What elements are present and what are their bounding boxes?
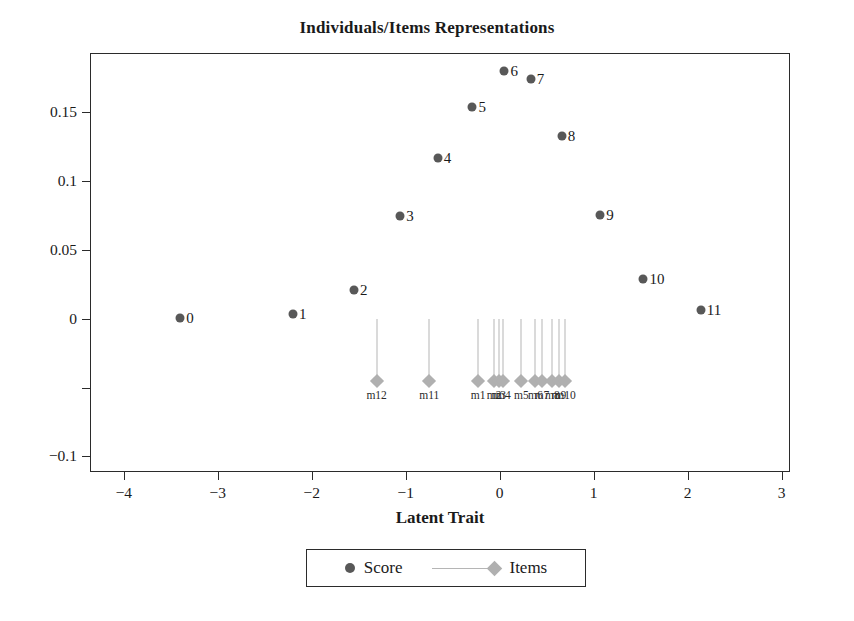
- item-label: m10: [555, 389, 575, 401]
- item-stem: [565, 319, 566, 382]
- y-axis-tick-label: 0.05: [50, 241, 77, 259]
- score-label: 11: [707, 301, 721, 318]
- x-axis-tick: [218, 471, 219, 480]
- score-marker[interactable]: [639, 275, 648, 284]
- x-axis-tick-label: −3: [210, 484, 227, 502]
- score-label: 1: [299, 305, 307, 322]
- item-stem: [429, 319, 430, 382]
- y-axis-tick: [82, 456, 91, 457]
- x-axis-tick: [124, 471, 125, 480]
- score-marker[interactable]: [350, 286, 359, 295]
- score-marker[interactable]: [500, 67, 509, 76]
- legend-entry-score: Score: [345, 558, 403, 578]
- x-axis-title: Latent Trait: [90, 508, 790, 528]
- item-stem: [376, 319, 377, 382]
- plot-inner: −0.100.050.10.15−4−3−2−10123m12m11m1m2m3…: [91, 54, 789, 471]
- y-axis-tick: [82, 319, 91, 320]
- item-label: m11: [419, 389, 439, 401]
- y-axis-tick: [82, 181, 91, 182]
- item-marker[interactable]: [514, 374, 528, 388]
- score-label: 0: [186, 309, 194, 326]
- score-label: 3: [406, 207, 414, 224]
- x-axis-tick-label: 1: [590, 484, 598, 502]
- line-marker-icon: [432, 568, 494, 569]
- item-label: m1: [471, 389, 486, 401]
- score-marker[interactable]: [176, 313, 185, 322]
- legend-label-score: Score: [364, 558, 403, 578]
- x-axis-tick: [500, 471, 501, 480]
- item-label: m5: [514, 389, 529, 401]
- item-stem: [535, 319, 536, 382]
- legend-entry-items: Items: [432, 558, 547, 578]
- x-axis-tick-label: 3: [778, 484, 786, 502]
- legend-label-items: Items: [509, 558, 547, 578]
- y-axis-tick-label: 0: [69, 310, 77, 328]
- x-axis-tick-label: −4: [116, 484, 133, 502]
- y-axis-tick-label: 0.15: [50, 103, 77, 121]
- score-label: 6: [510, 63, 518, 80]
- score-marker[interactable]: [396, 211, 405, 220]
- item-stem: [552, 319, 553, 382]
- score-label: 9: [606, 206, 614, 223]
- chart-figure: Individuals/Items Representations −0.100…: [0, 0, 854, 621]
- score-label: 10: [649, 271, 664, 288]
- item-stem: [478, 319, 479, 382]
- score-label: 2: [360, 282, 368, 299]
- score-marker[interactable]: [468, 103, 477, 112]
- item-label: m12: [366, 389, 386, 401]
- chart-title: Individuals/Items Representations: [0, 18, 854, 38]
- item-stem: [503, 319, 504, 382]
- score-marker[interactable]: [557, 132, 566, 141]
- item-marker[interactable]: [370, 374, 384, 388]
- item-marker[interactable]: [471, 374, 485, 388]
- y-axis-tick: [82, 388, 91, 389]
- item-stem: [494, 319, 495, 382]
- y-axis-tick-label: −0.1: [49, 447, 77, 465]
- diamond-marker-icon: [487, 560, 503, 576]
- x-axis-tick-label: 0: [496, 484, 504, 502]
- score-marker[interactable]: [526, 75, 535, 84]
- x-axis-tick: [688, 471, 689, 480]
- y-axis-tick-label: 0.1: [58, 172, 77, 190]
- item-stem: [521, 319, 522, 382]
- score-marker[interactable]: [289, 309, 298, 318]
- score-label: 7: [537, 71, 545, 88]
- filled-circle-marker-icon: [345, 563, 355, 573]
- score-label: 5: [478, 99, 486, 116]
- score-marker[interactable]: [433, 154, 442, 163]
- x-axis-tick: [594, 471, 595, 480]
- item-label: m4: [496, 389, 511, 401]
- x-axis-tick: [312, 471, 313, 480]
- x-axis-tick-label: 2: [684, 484, 692, 502]
- x-axis-tick: [782, 471, 783, 480]
- item-stem: [498, 319, 499, 382]
- score-label: 4: [444, 150, 452, 167]
- score-label: 8: [568, 128, 576, 145]
- item-stem: [558, 319, 559, 382]
- score-marker[interactable]: [696, 305, 705, 314]
- plot-area: −0.100.050.10.15−4−3−2−10123m12m11m1m2m3…: [90, 53, 790, 472]
- score-marker[interactable]: [596, 210, 605, 219]
- x-axis-tick-label: −2: [304, 484, 321, 502]
- y-axis-tick: [82, 112, 91, 113]
- x-axis-tick: [406, 471, 407, 480]
- y-axis-tick: [82, 250, 91, 251]
- chart-legend: Score Items: [306, 549, 586, 587]
- item-stem: [542, 319, 543, 382]
- item-marker[interactable]: [422, 374, 436, 388]
- x-axis-tick-label: −1: [398, 484, 415, 502]
